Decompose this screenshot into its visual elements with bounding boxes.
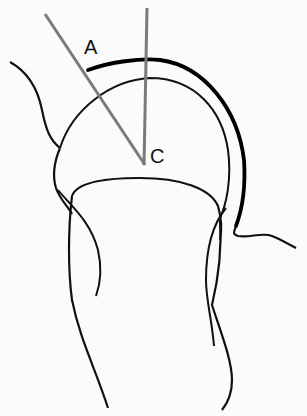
shaft-left-inner — [58, 190, 100, 296]
anatomy-diagram: A C — [0, 0, 307, 416]
thick-articular-arc — [88, 59, 245, 226]
shaft-right-wall — [212, 220, 232, 410]
right-outer-contour — [234, 226, 296, 248]
label-center-c: C — [150, 145, 164, 167]
neck-dome — [72, 178, 221, 240]
label-point-a: A — [84, 36, 98, 58]
reference-line-vertical — [144, 8, 147, 165]
diagram-canvas: A C — [0, 0, 307, 416]
shaft-right-inner — [206, 208, 226, 346]
left-outer-contour — [10, 62, 60, 148]
